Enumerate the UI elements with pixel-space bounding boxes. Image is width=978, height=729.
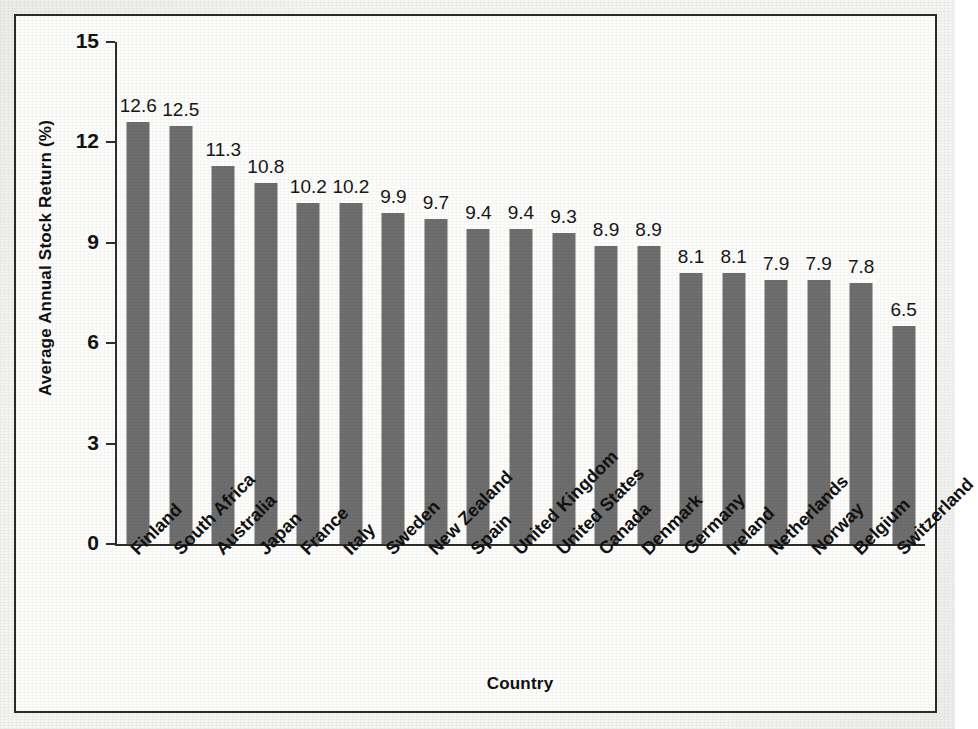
- bar: [424, 219, 447, 544]
- bar-value-label: 7.9: [763, 253, 789, 275]
- y-axis-tick-label: 3: [87, 431, 99, 455]
- bar-value-label: 11.3: [206, 139, 242, 161]
- bar-value-label: 9.4: [508, 202, 534, 224]
- bar-value-label: 10.2: [332, 176, 369, 198]
- y-axis-tick-label: 9: [87, 230, 99, 254]
- bar-group: 8.1: [712, 42, 755, 544]
- bar: [765, 280, 788, 544]
- bar-value-label: 10.2: [290, 176, 327, 198]
- plot-area: 12.612.511.310.810.210.29.99.79.49.49.38…: [117, 42, 925, 544]
- bar-value-label: 6.5: [891, 299, 917, 321]
- bar-group: 6.5: [882, 42, 925, 544]
- y-axis-tick: 3: [106, 443, 115, 445]
- bar-value-label: 9.3: [550, 206, 576, 228]
- x-axis-category-labels: FinlandSouth AfricaAustraliaJapanFranceI…: [117, 546, 925, 672]
- bar: [509, 229, 532, 544]
- y-axis-tick-label: 6: [87, 330, 99, 354]
- bar-group: 10.8: [245, 42, 288, 544]
- y-axis-title: Average Annual Stock Return (%): [36, 43, 56, 473]
- bar-group: 8.1: [670, 42, 713, 544]
- bar-group: 7.9: [755, 42, 798, 544]
- bar-group: 10.2: [330, 42, 373, 544]
- bar-value-label: 9.4: [465, 202, 491, 224]
- y-axis-tick: 0: [106, 543, 115, 545]
- bar-value-label: 7.8: [848, 256, 874, 278]
- y-axis-tick: 6: [106, 342, 115, 344]
- bar-group: 7.8: [840, 42, 883, 544]
- bar-value-label: 12.6: [120, 95, 157, 117]
- bar-group: 12.5: [160, 42, 203, 544]
- y-axis-tick-label: 15: [76, 29, 99, 53]
- bar-value-label: 10.8: [247, 156, 284, 178]
- y-axis-tick-label: 12: [76, 129, 99, 153]
- bar-group: 12.6: [117, 42, 160, 544]
- y-axis-tick: 9: [106, 242, 115, 244]
- bar-group: 11.3: [202, 42, 245, 544]
- bar-group: 10.2: [287, 42, 330, 544]
- bar-group: 9.4: [500, 42, 543, 544]
- chart-canvas: 03691215 Average Annual Stock Return (%)…: [16, 16, 935, 711]
- bar-value-label: 9.7: [423, 192, 449, 214]
- bar-value-label: 8.1: [678, 246, 704, 268]
- y-axis-tick: 12: [106, 141, 115, 143]
- bar: [382, 213, 405, 544]
- y-axis-tick: 15: [106, 41, 115, 43]
- bar-value-label: 12.5: [162, 99, 199, 121]
- bar-value-label: 9.9: [380, 186, 406, 208]
- y-axis-tick-label: 0: [87, 531, 99, 555]
- bar-group: 9.7: [415, 42, 458, 544]
- bar-value-label: 7.9: [805, 253, 831, 275]
- bar-group: 9.3: [542, 42, 585, 544]
- bar: [127, 122, 150, 544]
- bar: [297, 203, 320, 544]
- bar-group: 7.9: [797, 42, 840, 544]
- bar-group: 9.4: [457, 42, 500, 544]
- bar: [339, 203, 362, 544]
- figure-frame: 03691215 Average Annual Stock Return (%)…: [14, 14, 937, 713]
- bar-value-label: 8.9: [635, 219, 661, 241]
- bar-group: 9.9: [372, 42, 415, 544]
- bar-value-label: 8.9: [593, 219, 619, 241]
- x-axis-title: Country: [115, 674, 925, 694]
- bar-value-label: 8.1: [720, 246, 746, 268]
- bar: [169, 126, 192, 544]
